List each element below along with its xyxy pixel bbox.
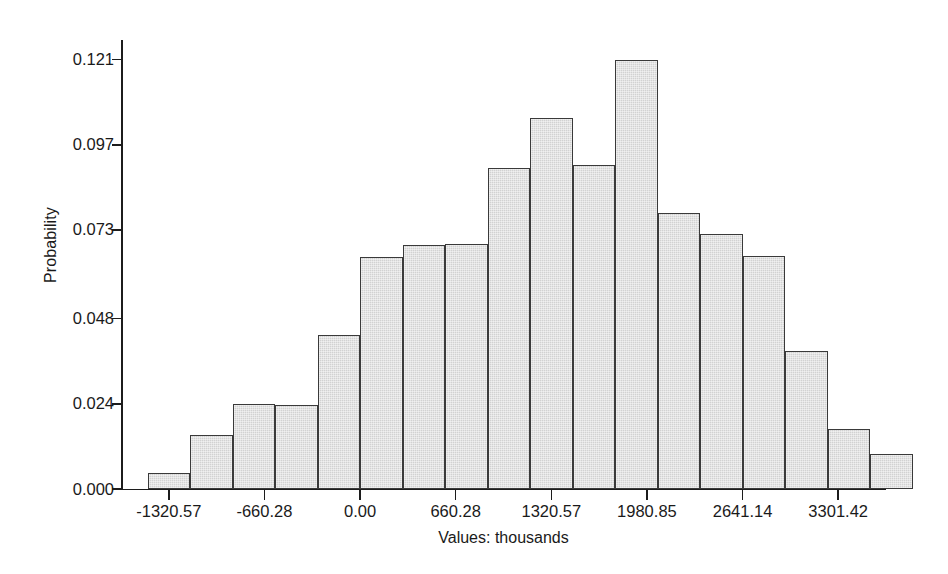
y-tick-mark [112,403,122,405]
y-tick-label: 0.000 [50,481,114,498]
histogram-bar [743,256,786,489]
x-tick-mark [359,490,361,500]
y-tick-label-group: 0.0000.0240.0480.0730.0970.121 [36,0,114,574]
histogram-bar [488,168,531,489]
x-tick-mark [837,490,839,500]
histogram-bar [658,213,701,489]
histogram-bar [870,454,913,489]
histogram-bar [445,244,488,489]
x-tick-mark [455,490,457,500]
y-tick-label: 0.097 [50,136,114,153]
x-tick-mark [742,490,744,500]
histogram-figure: Probability 0.0000.0240.0480.0730.0970.1… [0,0,948,574]
y-tick-mark [112,59,122,61]
histogram-bar [190,435,233,489]
y-tick-label: 0.048 [50,310,114,327]
histogram-bar [403,245,446,489]
y-tick-mark [112,488,122,490]
histogram-bar [828,429,871,489]
y-tick-label: 0.073 [50,221,114,238]
x-tick-mark [551,490,553,500]
y-tick-label: 0.121 [50,51,114,68]
y-tick-mark [112,144,122,146]
histogram-bar [275,405,318,489]
histogram-bar [700,234,743,489]
y-tick-mark [112,229,122,231]
x-axis-title: Values: thousands [121,529,886,547]
histogram-bar [148,473,191,489]
x-tick-mark [264,490,266,500]
histogram-bar [573,165,616,489]
histogram-bar [785,351,828,489]
histogram-bar [318,335,361,489]
x-tick-mark [168,490,170,500]
x-tick-label: 3301.42 [768,503,908,520]
x-tick-mark [646,490,648,500]
histogram-bar [615,60,658,489]
histogram-bar [360,257,403,489]
y-tick-label: 0.024 [50,395,114,412]
histogram-bar [530,118,573,489]
plot-area [121,40,886,489]
histogram-bar [233,404,276,489]
y-tick-mark [112,318,122,320]
